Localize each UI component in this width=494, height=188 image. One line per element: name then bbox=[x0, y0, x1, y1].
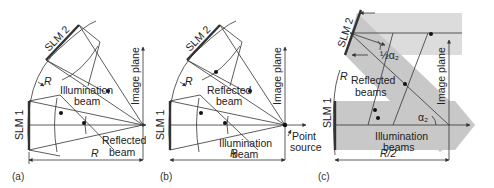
radius-label: R bbox=[340, 70, 348, 82]
illumination-beam-label-2: beam bbox=[232, 148, 259, 160]
image-plane-label: Image plane bbox=[435, 47, 447, 105]
slm1-label: SLM 1 bbox=[13, 109, 25, 140]
reflected-beam-label: Reflected bbox=[102, 134, 147, 146]
radius-label: R bbox=[185, 75, 193, 87]
panel-a-text: SLM 1 SLM 2 Image plane R R Illumination… bbox=[12, 23, 147, 182]
illumination-beams-label-2: beams bbox=[383, 141, 415, 153]
slm1-label: SLM 1 bbox=[321, 97, 333, 128]
radius-label: R bbox=[44, 75, 52, 87]
image-plane-label: Image plane bbox=[271, 47, 283, 105]
illumination-beam-label-2: beam bbox=[74, 95, 101, 107]
panel-a-tag: (a) bbox=[12, 171, 24, 182]
panel-b-tag: (b) bbox=[160, 171, 172, 182]
reflected-beams-label: Reflected bbox=[351, 74, 396, 86]
point-source-label-2: source bbox=[290, 141, 322, 153]
image-plane-label: Image plane bbox=[129, 47, 141, 105]
panel-c-tag: (c) bbox=[318, 171, 330, 182]
radius-dimension-label: R bbox=[91, 147, 99, 159]
reflected-beam-label-2: beam bbox=[216, 95, 243, 107]
optical-diagram: SLM 1 SLM 2 Image plane R R Illumination… bbox=[0, 0, 494, 188]
alpha-label: α₂ bbox=[418, 111, 428, 123]
reflected-beams-label-2: beams bbox=[355, 86, 387, 98]
half-alpha-label: ½α₂ bbox=[380, 49, 399, 61]
slm1-label: SLM 1 bbox=[154, 109, 166, 140]
reflected-beam-label-2: beam bbox=[109, 146, 136, 158]
